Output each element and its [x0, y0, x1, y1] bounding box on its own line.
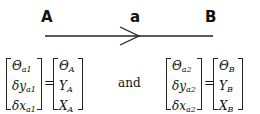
and-connector: and [118, 76, 141, 90]
matrix-cell: YA [59, 78, 77, 98]
matrix-cell: XB [219, 98, 237, 114]
matrix-eq1-lhs: Θa1 δya1 δxa1 [6, 58, 42, 110]
matrix-cell: δxa1 [12, 98, 36, 114]
matrix-eq2-lhs: Θa2 δya2 δxa2 [166, 58, 202, 110]
matrix-cell: δxa2 [172, 98, 196, 114]
matrix-cell: XA [59, 98, 77, 114]
matrix-cell: δya1 [12, 78, 36, 98]
matrix-cell: ΘA [59, 58, 77, 78]
matrix-cell: YB [219, 78, 237, 98]
element-arrow-line [0, 0, 260, 50]
matrix-cell: ΘB [219, 58, 237, 78]
matrix-cell: δya2 [172, 78, 196, 98]
matrix-cell: Θa2 [172, 58, 196, 78]
matrix-eq1-rhs: ΘA YA XA [53, 58, 83, 110]
matrix-cell: Θa1 [12, 58, 36, 78]
matrix-eq2-rhs: ΘB YB XB [213, 58, 243, 110]
